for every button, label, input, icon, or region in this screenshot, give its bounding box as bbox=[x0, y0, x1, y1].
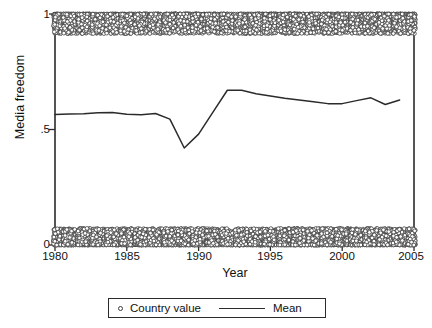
x-axis-label: Year bbox=[55, 266, 415, 280]
legend-label-mean: Mean bbox=[273, 302, 302, 314]
chart-legend: Country value Mean bbox=[108, 298, 326, 318]
x-tick-label-1990: 1990 bbox=[177, 250, 221, 262]
axis-ticks bbox=[49, 14, 414, 251]
x-tick-label-2005: 2005 bbox=[389, 250, 432, 262]
x-tick-label-2000: 2000 bbox=[320, 250, 364, 262]
country-value-scatter-points bbox=[52, 12, 417, 247]
y-tick-label-1: 1 bbox=[30, 8, 50, 20]
y-tick-label-0-5: .5 bbox=[30, 123, 50, 135]
open-circle-icon bbox=[118, 306, 123, 311]
legend-entry-mean: Mean bbox=[201, 299, 302, 317]
x-tick-label-1995: 1995 bbox=[248, 250, 292, 262]
x-tick-label-1980: 1980 bbox=[33, 250, 77, 262]
line-sample-icon bbox=[219, 308, 265, 309]
media-freedom-scatter-figure: Media freedom Year 1 .5 0 1980 1985 1990… bbox=[0, 0, 432, 328]
legend-entry-country-value: Country value bbox=[109, 299, 201, 317]
mean-trend-line bbox=[55, 90, 400, 148]
x-tick-label-1985: 1985 bbox=[105, 250, 149, 262]
y-axis-tick-labels: 1 .5 0 bbox=[24, 0, 50, 328]
y-tick-label-0: 0 bbox=[30, 238, 50, 250]
legend-label-country-value: Country value bbox=[130, 302, 201, 314]
plot-frame bbox=[55, 14, 414, 245]
